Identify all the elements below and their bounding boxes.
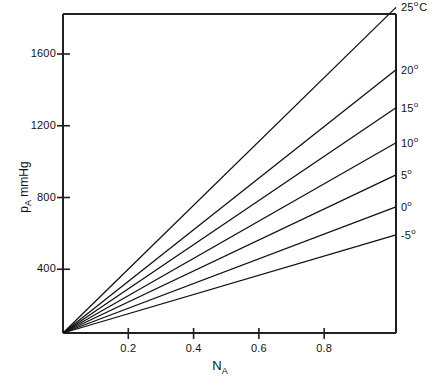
series-label--5: -5o <box>401 229 416 241</box>
series-label-value: 10 <box>401 137 414 149</box>
series-label-20: 20o <box>401 64 418 76</box>
series-label-15: 15o <box>401 102 418 114</box>
y-tick-label: 1600 <box>10 47 56 59</box>
x-tick-label: 0.8 <box>304 342 344 354</box>
y-axis-label-symbol: p <box>17 206 31 213</box>
x-axis-label-symbol: N <box>212 358 221 373</box>
degree-symbol-icon: o <box>407 199 412 208</box>
x-tick-label: 0.6 <box>239 342 279 354</box>
series-line-0 <box>63 207 396 333</box>
plot-canvas <box>0 0 443 390</box>
axes-frame <box>63 14 396 333</box>
series-label-25: 25oC <box>401 1 427 13</box>
y-tick-label: 800 <box>10 191 56 203</box>
chart-figure: pA mmHg NA 40080012001600 0.20.40.60.8 2… <box>0 0 443 390</box>
series-line-20 <box>63 70 396 333</box>
x-tick-label: 0.2 <box>108 342 148 354</box>
degree-symbol-icon: o <box>414 135 419 144</box>
series-label-unit: C <box>419 1 427 13</box>
degree-symbol-icon: o <box>407 167 412 176</box>
degree-symbol-icon: o <box>414 62 419 71</box>
series-label-0: 0o <box>401 201 412 213</box>
series-label-value: 25 <box>401 1 414 13</box>
y-axis-label: pA mmHg <box>14 152 34 222</box>
degree-symbol-icon: o <box>411 227 416 236</box>
series-line-10 <box>63 143 396 333</box>
y-tick-label: 400 <box>10 262 56 274</box>
x-tick-label: 0.4 <box>174 342 214 354</box>
series-label-10: 10o <box>401 137 418 149</box>
degree-symbol-icon: o <box>414 100 419 109</box>
series-label-value: -5 <box>401 229 411 241</box>
series-label-value: 15 <box>401 102 414 114</box>
x-axis-label: NA <box>180 358 260 373</box>
series-label-5: 5o <box>401 169 412 181</box>
degree-symbol-icon: o <box>414 0 419 9</box>
series-line-15 <box>63 108 396 333</box>
y-tick-label: 1200 <box>10 119 56 131</box>
y-axis-label-text: pA mmHg <box>17 161 31 212</box>
series-label-value: 20 <box>401 64 414 76</box>
series-line-5 <box>63 175 396 333</box>
series-lines-group <box>63 7 396 333</box>
x-axis-label-subscript: A <box>222 366 228 376</box>
